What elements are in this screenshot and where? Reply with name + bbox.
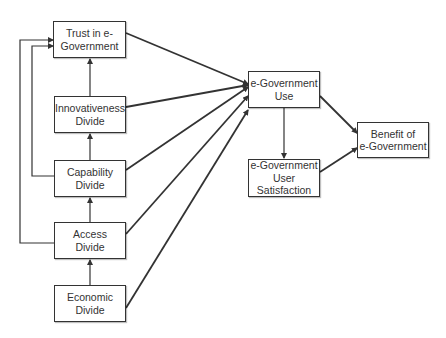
node-label: Access Divide <box>73 228 107 253</box>
edge-capability-use <box>126 87 248 170</box>
node-label: e-Government User Satisfaction <box>250 159 317 197</box>
node-label: Benefit of e-Government <box>359 128 426 153</box>
node-economic-divide: Economic Divide <box>54 285 126 322</box>
edge-capability-trust-loop <box>32 46 54 176</box>
node-egovernment-use: e-Government Use <box>248 71 320 108</box>
node-trust-in-egovernment: Trust in e- Government <box>53 21 126 58</box>
edge-access-trust-loop <box>20 40 54 243</box>
node-label: Innovativeness Divide <box>55 102 125 127</box>
diagram-canvas: Trust in e- Government Innovativeness Di… <box>0 0 446 338</box>
node-label: Trust in e- Government <box>61 27 119 52</box>
edge-use-benefit <box>320 96 357 133</box>
node-label: Economic Divide <box>67 291 113 316</box>
edge-satisfaction-benefit <box>320 148 357 172</box>
edge-economic-use <box>126 110 248 308</box>
edge-access-use <box>126 96 248 234</box>
node-egovernment-user-satisfaction: e-Government User Satisfaction <box>248 159 320 197</box>
node-label: Capability Divide <box>67 166 113 191</box>
node-label: e-Government Use <box>250 77 317 102</box>
node-benefit-of-egovernment: Benefit of e-Government <box>357 122 429 158</box>
node-capability-divide: Capability Divide <box>54 160 126 197</box>
node-access-divide: Access Divide <box>54 222 126 259</box>
node-innovativeness-divide: Innovativeness Divide <box>54 96 126 133</box>
edge-innovativeness-use <box>126 85 248 107</box>
edge-trust-use <box>126 33 248 84</box>
